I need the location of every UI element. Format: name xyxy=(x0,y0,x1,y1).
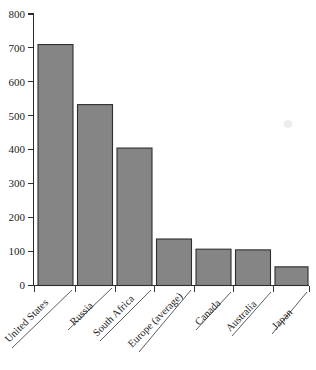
y-tick-label: 800 xyxy=(9,8,26,20)
bar-south-africa[interactable] xyxy=(117,148,152,285)
bar-united-states[interactable] xyxy=(38,45,73,286)
y-tick-label: 600 xyxy=(9,76,26,88)
chart-canvas: 800 700 600 500 400 300 xyxy=(0,0,316,370)
bar-russia[interactable] xyxy=(78,105,113,286)
y-tick-label: 400 xyxy=(9,143,26,155)
bar-japan[interactable] xyxy=(275,267,308,286)
y-tick-label: 500 xyxy=(9,110,26,122)
y-tick-label: 100 xyxy=(9,245,26,257)
bar-europe-average[interactable] xyxy=(157,239,192,285)
bar-canada[interactable] xyxy=(196,249,231,285)
bar-australia[interactable] xyxy=(236,250,271,286)
y-tick-label: 200 xyxy=(9,211,26,223)
bar-chart-figure: 800 700 600 500 400 300 xyxy=(0,0,316,370)
y-tick-label: 0 xyxy=(20,279,26,291)
y-tick-label: 700 xyxy=(9,42,26,54)
y-tick-label: 300 xyxy=(9,177,26,189)
scan-artifact-speck xyxy=(284,120,293,128)
